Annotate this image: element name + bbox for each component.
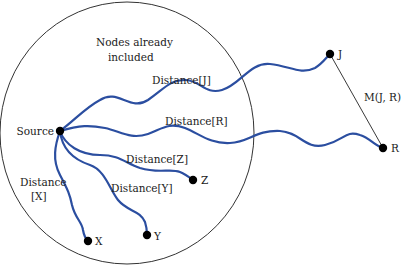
edge-label-m-jr: M(J, R): [364, 91, 401, 103]
edge-label-distance-z: Distance[Z]: [126, 153, 188, 165]
node-label-source: Source: [17, 125, 54, 137]
region-label-line1: Nodes already: [96, 36, 173, 48]
node-source: [56, 127, 64, 135]
edge-label-distance-x-line2: [X]: [31, 190, 47, 202]
node-label-r: R: [391, 142, 400, 154]
node-x: [84, 237, 92, 245]
node-label-z: Z: [201, 174, 208, 186]
node-y: [143, 231, 151, 239]
edge-label-distance-y: Distance[Y]: [111, 182, 173, 194]
region-label-line2: included: [108, 51, 154, 63]
edge-label-distance-x-line1: Distance: [20, 176, 67, 188]
node-r: [379, 144, 387, 152]
node-label-x: X: [95, 235, 103, 247]
edge-label-distance-r: Distance[R]: [165, 115, 228, 127]
dijkstra-diagram: Nodes already included Source J R Z Y X …: [0, 0, 402, 266]
node-j: [326, 50, 334, 58]
node-label-y: Y: [153, 230, 162, 242]
node-label-j: J: [337, 48, 342, 60]
node-z: [189, 176, 197, 184]
path-source-r: [60, 126, 383, 148]
edge-label-distance-j: Distance[J]: [152, 74, 211, 86]
